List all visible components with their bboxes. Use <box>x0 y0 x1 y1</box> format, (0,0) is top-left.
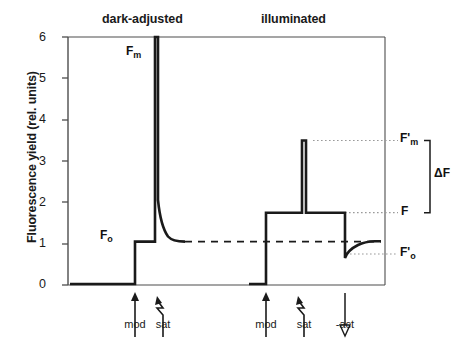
y-axis-ticks <box>62 37 68 285</box>
label-fo-prime: F'o <box>400 245 416 261</box>
delta-f-bracket <box>424 141 430 213</box>
up-arrow-icon-mod-1 <box>131 292 139 337</box>
lightning-arrow-icon-sat-1 <box>155 296 163 337</box>
marker-label-sat-2: sat <box>284 318 324 330</box>
curve-dark-adjusted <box>70 37 185 284</box>
axis-frame <box>68 37 385 285</box>
marker-label-sat-1: sat <box>143 318 183 330</box>
label-f: F <box>401 204 408 218</box>
label-fm: Fm <box>126 44 141 60</box>
up-arrow-icon-mod-2 <box>262 292 270 337</box>
label-delta-f: ΔF <box>434 166 450 180</box>
reference-lines <box>185 141 398 255</box>
lightning-arrow-icon-sat-2 <box>296 296 304 337</box>
label-fo: Fo <box>100 228 113 244</box>
marker-label-act: -act <box>325 318 365 330</box>
marker-label-mod-2: mod <box>246 318 286 330</box>
event-marker-arrows <box>131 292 350 337</box>
plot-canvas <box>0 0 461 348</box>
fluorescence-yield-chart: Fluorescence yield (rel. units) 6 5 4 3 … <box>0 0 461 348</box>
label-fm-prime: F'm <box>400 131 418 147</box>
